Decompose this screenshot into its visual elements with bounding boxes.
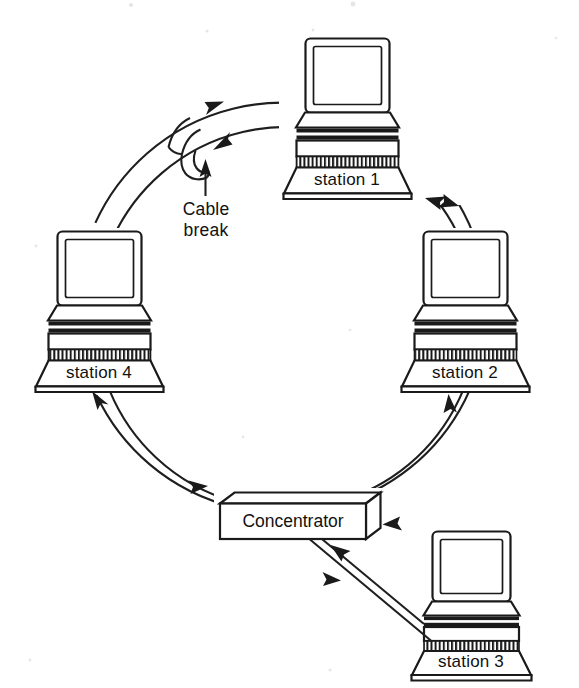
keyboard-hatch-icon-station-2 (415, 350, 517, 361)
station-4-label: station 4 (66, 363, 132, 382)
station-1-label: station 1 (314, 170, 380, 189)
keyboard-hatch-icon-station-3 (424, 641, 519, 651)
vent-band-1-station-2 (415, 322, 517, 326)
chassis-station-2 (415, 334, 517, 350)
body-top-station-1 (296, 113, 399, 128)
concentrator-label: Concentrator (242, 511, 343, 531)
base-lip-station-2 (402, 387, 530, 393)
chassis-station-3 (424, 627, 519, 641)
chassis-station-1 (297, 141, 399, 157)
keyboard-hatch-icon-station-4 (49, 350, 151, 361)
screen-station-3 (441, 540, 503, 594)
base-lip-station-1 (284, 194, 412, 200)
body-top-station-3 (424, 602, 520, 616)
vent-band-2-station-4 (49, 329, 151, 333)
screen-station-2 (432, 240, 500, 298)
vent-band-2-station-3 (424, 623, 519, 627)
network-ring-diagram: station 1 station 2 (0, 0, 579, 688)
screen-station-4 (66, 240, 134, 298)
base-lip-station-4 (36, 387, 164, 393)
keyboard-hatch-icon-station-1 (297, 157, 399, 168)
box-3d-icon-top-face (220, 493, 381, 504)
body-top-station-4 (48, 306, 151, 321)
station-3-label: station 3 (438, 652, 504, 671)
cable-break-label-line2: break (184, 220, 229, 240)
vent-band-1-station-4 (49, 322, 151, 326)
base-lip-station-3 (412, 675, 532, 681)
vent-band-2-station-2 (415, 329, 517, 333)
vent-band-2-station-1 (297, 136, 399, 140)
cable-break-label-line1: Cable (183, 199, 230, 219)
body-top-station-2 (414, 306, 517, 321)
figure-root: station 1 station 2 (0, 0, 579, 688)
chassis-station-4 (49, 334, 151, 350)
concentrator[interactable]: Concentrator (220, 493, 381, 540)
station-2-label: station 2 (432, 363, 498, 382)
screen-station-1 (314, 47, 382, 105)
vent-band-1-station-1 (297, 129, 399, 133)
vent-band-1-station-3 (424, 617, 519, 621)
